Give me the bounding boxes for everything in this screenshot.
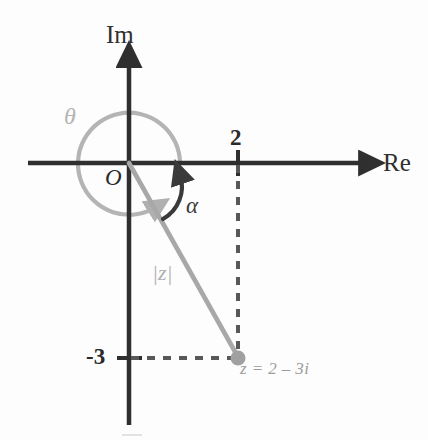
imaginary-axis-label: Im [106,22,134,47]
real-tick-label-2: 2 [230,126,242,149]
imaginary-tick-label-minus3: -3 [86,345,105,368]
origin-label: O [105,166,122,189]
real-axis-label: Re [383,150,411,175]
argand-diagram-figure: Im Re O 2 -3 θ α |z| z = 2 – 3i [0,0,428,440]
modulus-label: |z| [152,262,173,284]
alpha-arc [163,175,182,219]
theta-angle-label: θ [64,104,76,128]
alpha-angle-label: α [186,194,198,217]
page-edge-artifact [122,434,142,436]
argand-diagram-canvas [0,0,428,440]
point-z-label: z = 2 – 3i [240,360,309,377]
